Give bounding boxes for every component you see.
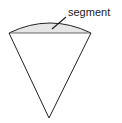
radius-right	[49, 33, 91, 118]
sector-diagram	[0, 0, 122, 123]
radius-left	[9, 33, 49, 118]
segment-label: segment	[68, 6, 110, 18]
